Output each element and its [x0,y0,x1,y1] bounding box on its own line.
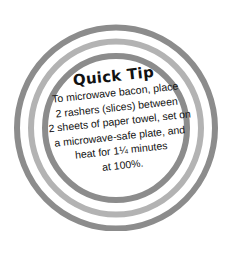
tip-content: Quick Tip To microwave bacon, place 2 ra… [43,61,193,179]
tip-body: To microwave bacon, place 2 rashers (sli… [45,78,193,179]
quick-tip-badge: Quick Tip To microwave bacon, place 2 ra… [14,24,218,231]
